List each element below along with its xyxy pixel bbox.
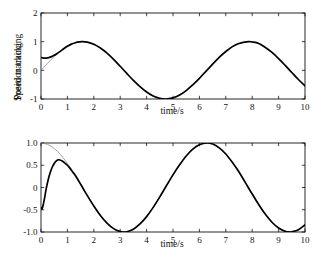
- y-tick-label: -1: [30, 94, 38, 104]
- series-reference: [41, 42, 305, 99]
- y-tick-label: 0.5: [26, 160, 38, 170]
- x-tick-label: 10: [301, 102, 311, 112]
- series-actual: [41, 143, 305, 232]
- speed-tracking-plot: 012345678910-1.0-0.500.51.0: [0, 128, 317, 257]
- x-tick-label: 7: [224, 235, 229, 245]
- x-tick-label: 1: [65, 235, 70, 245]
- plot-frame: [41, 143, 305, 232]
- x-tick-label: 9: [276, 235, 281, 245]
- speed-tracking-panel: 012345678910-1.0-0.500.51.0: [0, 128, 317, 257]
- x-tick-label: 7: [224, 102, 229, 112]
- y-tick-label: 1.0: [26, 138, 38, 148]
- series-reference: [41, 143, 305, 232]
- position-tracking-xlabel: time/s: [122, 106, 222, 116]
- speed-tracking-ylabel: Speed tracking: [13, 43, 23, 101]
- x-tick-label: 0: [39, 102, 44, 112]
- x-tick-label: 2: [92, 235, 97, 245]
- plot-frame: [41, 13, 305, 99]
- x-tick-label: 1: [65, 102, 70, 112]
- x-tick-label: 10: [301, 235, 311, 245]
- y-tick-label: -0.5: [23, 205, 38, 215]
- x-tick-label: 8: [250, 102, 255, 112]
- x-tick-label: 2: [92, 102, 97, 112]
- x-tick-label: 9: [276, 102, 281, 112]
- series-actual: [41, 42, 305, 99]
- y-tick-label: -1.0: [23, 227, 38, 237]
- y-tick-label: 0: [33, 66, 38, 76]
- tracking-figure: 012345678910-1012 Position tracking time…: [0, 0, 317, 257]
- x-tick-label: 8: [250, 235, 255, 245]
- y-tick-label: 1: [33, 37, 38, 47]
- y-tick-label: 2: [33, 8, 38, 18]
- speed-tracking-xlabel: time/s: [122, 239, 222, 249]
- y-tick-label: 0: [33, 183, 38, 193]
- x-tick-label: 0: [39, 235, 44, 245]
